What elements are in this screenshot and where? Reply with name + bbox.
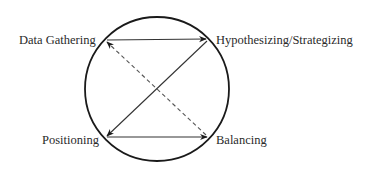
node-label-positioning: Positioning — [42, 133, 100, 147]
cycle-diagram: Data Gathering Hypothesizing/Strategizin… — [0, 0, 365, 175]
node-label-data-gathering: Data Gathering — [19, 33, 96, 47]
node-label-balancing: Balancing — [216, 133, 267, 147]
edge-hypothesizing-to-positioning — [107, 41, 207, 136]
edge-data-gathering-to-hypothesizing — [107, 39, 206, 40]
node-label-hypothesizing: Hypothesizing/Strategizing — [216, 33, 354, 47]
